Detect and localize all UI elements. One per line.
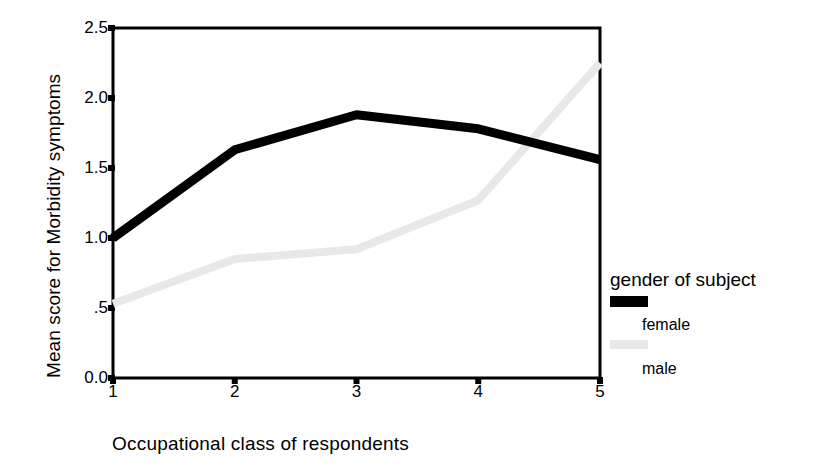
legend: gender of subject femalemale (608, 268, 813, 380)
data-series-group (113, 63, 600, 304)
chart-figure: Mean score for Morbidity symptoms 0.0.51… (0, 0, 820, 474)
x-axis-title: Occupational class of respondents (112, 432, 409, 456)
legend-swatch-female (610, 296, 648, 307)
y-tick-mark (108, 25, 115, 31)
legend-label-female: female (642, 315, 690, 334)
y-tick-mark (108, 95, 115, 101)
legend-swatch-male (610, 340, 648, 349)
series-line-female (113, 115, 600, 238)
axis-tick-marks (108, 25, 603, 384)
y-tick-mark (108, 165, 115, 171)
legend-label-male: male (642, 359, 677, 378)
legend-title: gender of subject (610, 268, 813, 292)
legend-entry-male[interactable]: male (608, 340, 813, 380)
x-tick-mark (597, 377, 603, 384)
axis-frame (113, 28, 600, 378)
x-tick-mark (354, 377, 360, 384)
legend-entries: femalemale (608, 296, 813, 380)
x-tick-mark (232, 377, 238, 384)
x-tick-mark (110, 377, 116, 384)
legend-entry-female[interactable]: female (608, 296, 813, 336)
x-tick-mark (475, 377, 481, 384)
plot-area (0, 0, 820, 474)
